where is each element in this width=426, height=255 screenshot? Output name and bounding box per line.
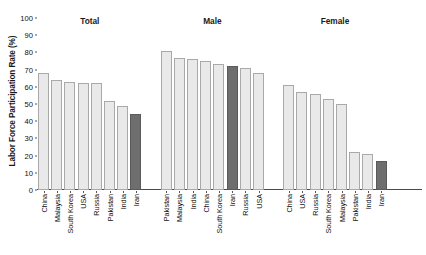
x-label-group-total: ChinaMalaysiaSouth KoreaUSARussiaPakista… [37,191,143,253]
x-label-slot: China [37,191,50,253]
x-tick-label: South Korea [214,194,223,233]
bar-slot [160,18,173,190]
bar-slot [375,18,388,190]
bar-slot [322,18,335,190]
bar-female-india[interactable] [362,154,373,190]
group-label-spacer [265,191,282,253]
bar-total-usa[interactable] [78,83,89,190]
y-tick-label: 20 [25,151,33,160]
x-tick-label: Malaysia [175,194,184,222]
chart-root: Labor Force Participation Rate (%) 10090… [0,0,426,255]
x-tick-label: USA [297,194,306,209]
bar-slot [199,18,212,190]
bar-female-china[interactable] [283,85,294,190]
bar-total-malaysia[interactable] [51,80,62,190]
bar-female-iran[interactable] [376,161,387,190]
bar-total-russia[interactable] [91,83,102,190]
x-label-slot: South Korea [212,191,225,253]
x-label-slot: USA [295,191,308,253]
x-tick-label: South Korea [65,194,74,233]
bar-slot [186,18,199,190]
x-label-slot: Iran [129,191,142,253]
bar-male-usa[interactable] [253,73,264,190]
y-tick-label: 50 [25,100,33,109]
x-label-slot: Russia [239,191,252,253]
x-tick-label: Pakistan [105,194,114,221]
bar-slot [63,18,76,190]
bar-male-iran[interactable] [227,66,238,190]
x-tick-label: Iran [131,194,140,206]
y-tick-label: 100 [20,14,33,23]
bar-slot [282,18,295,190]
bar-male-russia[interactable] [240,68,251,190]
x-tick-label: India [118,194,127,209]
bar-slot [173,18,186,190]
bar-slot [50,18,63,190]
bar-slot [252,18,265,190]
group-spacer [143,18,160,190]
bar-total-south-korea[interactable] [64,82,75,190]
x-label-slot: Iran [375,191,388,253]
x-axis-labels: ChinaMalaysiaSouth KoreaUSARussiaPakista… [37,191,422,253]
x-label-slot: India [361,191,374,253]
x-tick-label: Malaysia [337,194,346,222]
x-tick-label: USA [79,194,88,209]
x-label-slot: Russia [309,191,322,253]
x-label-slot: Malaysia [50,191,63,253]
x-tick-label: Malaysia [52,194,61,222]
bar-slot [239,18,252,190]
bar-total-india[interactable] [117,106,128,190]
y-tick-label: 10 [25,168,33,177]
bar-group-male: Male [160,18,266,190]
bar-slot [335,18,348,190]
x-label-slot: South Korea [322,191,335,253]
x-label-group-female: ChinaUSARussiaSouth KoreaMalaysiaPakista… [282,191,388,253]
bar-male-india[interactable] [187,59,198,190]
bar-male-south-korea[interactable] [213,64,224,190]
x-label-group-male: PakistanMalaysiaIndiaChinaSouth KoreaIra… [160,191,266,253]
x-tick-label: Iran [377,194,386,206]
y-tick-label: 0 [29,186,33,195]
x-label-slot: USA [77,191,90,253]
bar-male-china[interactable] [200,61,211,190]
y-tick-label: 90 [25,31,33,40]
y-axis-title: Labor Force Participation Rate (%) [6,6,20,196]
y-tick-label: 40 [25,117,33,126]
bar-female-south-korea[interactable] [323,99,334,190]
x-tick-label: China [284,194,293,213]
x-label-slot: USA [252,191,265,253]
bar-slot [212,18,225,190]
bar-groups: TotalMaleFemale [37,18,422,190]
bar-male-malaysia[interactable] [174,58,185,190]
x-tick-label: USA [254,194,263,209]
bar-female-russia[interactable] [310,94,321,190]
x-label-slot: China [282,191,295,253]
x-label-slot: China [199,191,212,253]
bar-slot [361,18,374,190]
y-tick-label: 60 [25,82,33,91]
bar-slot [116,18,129,190]
x-tick-label: China [201,194,210,213]
bar-total-china[interactable] [38,73,49,190]
x-label-slot: Russia [90,191,103,253]
bar-total-iran[interactable] [130,114,141,190]
x-label-slot: Pakistan [103,191,116,253]
x-label-slot: Iran [226,191,239,253]
bar-female-usa[interactable] [296,92,307,190]
y-tick-label: 70 [25,65,33,74]
x-tick-label: Russia [241,194,250,216]
bar-male-pakistan[interactable] [161,51,172,190]
bar-slot [129,18,142,190]
bar-group-total: Total [37,18,143,190]
bar-female-malaysia[interactable] [336,104,347,190]
bar-total-pakistan[interactable] [104,101,115,190]
x-label-slot: India [186,191,199,253]
bar-female-pakistan[interactable] [349,152,360,190]
bar-group-female: Female [282,18,388,190]
x-label-slot: Pakistan [160,191,173,253]
x-label-slot: Pakistan [348,191,361,253]
x-tick-label: Russia [92,194,101,216]
x-tick-label: India [363,194,372,209]
x-tick-label: Pakistan [350,194,359,221]
x-tick-label: South Korea [324,194,333,233]
